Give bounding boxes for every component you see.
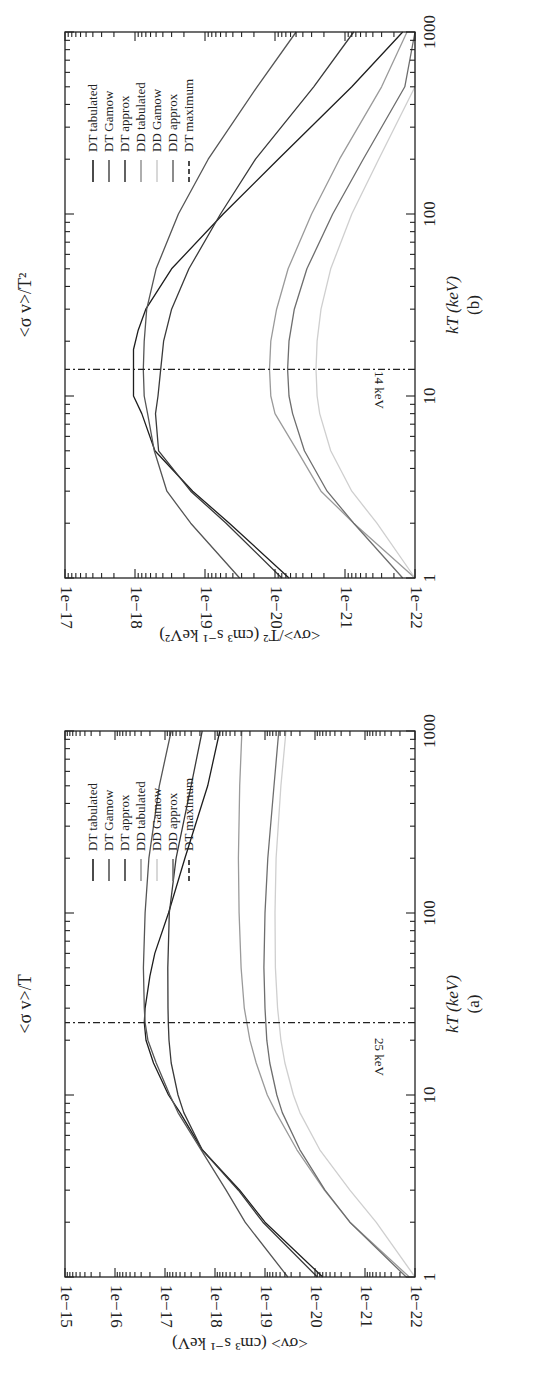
legend-a: DT tabulatedDT GamowDT approxDD tabulate… [85, 778, 196, 881]
chart-panel-b: 11010010001e−221e−211e−201e−191e−181e−17… [15, 15, 483, 629]
x-axis-label-b: kT (keV) [443, 276, 462, 334]
panel-caption-a: (a) [464, 995, 483, 1014]
x-axis-label-a: kT (keV) [443, 975, 462, 1033]
y-axis-label-a: <σv> (cm³ s⁻¹ keV) [172, 1334, 308, 1353]
chart-title-b: <σ v>/T² [15, 273, 35, 338]
legend-label: DD Gamow [149, 787, 164, 851]
x-tick-label: 1000 [420, 714, 439, 748]
series-dd-tabulated [238, 731, 409, 1277]
y-tick-label: 1e−17 [157, 1285, 176, 1328]
legend-label: DT Gamow [101, 90, 116, 152]
figure: 11010010001e−221e−211e−201e−191e−181e−17… [0, 0, 551, 1395]
y-tick-label: 1e−22 [407, 586, 426, 629]
legend-b: DT tabulatedDT GamowDT approxDD tabulate… [85, 79, 196, 182]
y-tick-label: 1e−19 [257, 1285, 276, 1328]
y-axis-label-b: <σv>/T² (cm³ s⁻¹ keV²) [159, 626, 320, 645]
legend-label: DT maximum [181, 79, 196, 152]
y-tick-label: 1e−21 [357, 1285, 376, 1328]
y-tick-label: 1e−17 [57, 586, 76, 629]
legend-label: DD approx [165, 792, 180, 851]
annotation-14kev: 14 keV [372, 371, 387, 410]
x-tick-label: 1000 [420, 15, 439, 49]
legend-label: DT approx [117, 794, 132, 851]
y-tick-label: 1e−20 [307, 1285, 326, 1328]
y-tick-label: 1e−20 [267, 586, 286, 629]
x-tick-label: 1 [420, 574, 439, 583]
panel-caption-b: (b) [464, 295, 483, 315]
y-tick-label: 1e−22 [407, 1285, 426, 1328]
y-tick-label: 1e−16 [107, 1285, 126, 1328]
legend-label: DT approx [117, 95, 132, 152]
legend-label: DD Gamow [149, 88, 164, 152]
annotation-25kev: 25 keV [372, 1038, 387, 1077]
y-tick-label: 1e−15 [57, 1285, 76, 1328]
legend-label: DT tabulated [85, 84, 100, 152]
series-dd-gamow [275, 731, 415, 1277]
x-tick-label: 10 [420, 388, 439, 405]
legend-label: DD approx [165, 93, 180, 152]
chart-title-a: <σ v>/T [15, 974, 35, 1034]
x-tick-label: 1 [420, 1273, 439, 1282]
x-tick-label: 10 [420, 1087, 439, 1104]
x-tick-label: 100 [420, 900, 439, 926]
y-tick-label: 1e−18 [207, 1285, 226, 1328]
y-tick-label: 1e−18 [127, 586, 146, 629]
legend-label: DT Gamow [101, 789, 116, 851]
legend-label: DD tabulated [133, 82, 148, 152]
legend-label: DT maximum [181, 778, 196, 851]
y-tick-label: 1e−21 [337, 586, 356, 629]
y-tick-label: 1e−19 [197, 586, 216, 629]
x-tick-label: 100 [420, 201, 439, 227]
series-dd-approx [264, 731, 406, 1277]
series-dd-approx [288, 32, 415, 578]
legend-label: DT tabulated [85, 783, 100, 851]
chart-panel-a: 11010010001e−221e−211e−201e−191e−181e−17… [15, 714, 483, 1328]
legend-label: DD tabulated [133, 781, 148, 851]
